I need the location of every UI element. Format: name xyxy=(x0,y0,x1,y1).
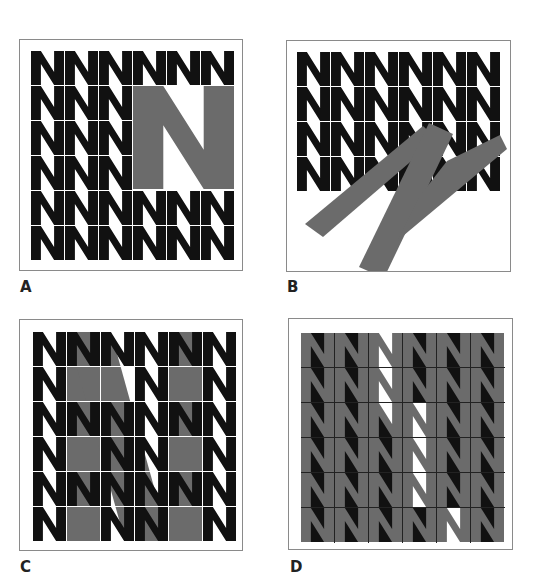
letter-n-glyph xyxy=(203,367,236,401)
panel-b-label: B xyxy=(287,280,298,295)
letter-n-glyph xyxy=(203,402,236,436)
letter-n-glyph xyxy=(65,121,98,155)
letter-n-glyph xyxy=(135,332,168,366)
letter-n-glyph xyxy=(133,226,166,260)
letter-n-glyph xyxy=(135,367,168,401)
letter-n-glyph xyxy=(31,86,64,120)
letter-n-glyph xyxy=(33,402,66,436)
panel-d-artwork xyxy=(289,319,512,549)
letter-n-glyph xyxy=(135,402,168,436)
letter-n-glyph xyxy=(31,191,64,225)
letter-n-glyph xyxy=(65,86,98,120)
letter-n-glyph xyxy=(399,52,432,86)
letter-n-glyph xyxy=(331,87,364,121)
letter-n-glyph xyxy=(33,472,66,506)
letter-n-glyph xyxy=(201,226,234,260)
letter-n-glyph xyxy=(399,87,432,121)
panel-a-label: A xyxy=(20,280,32,295)
letter-n-glyph xyxy=(31,121,64,155)
letter-n-glyph xyxy=(99,156,132,190)
letter-n-glyph xyxy=(65,51,98,85)
large-n-glyph xyxy=(133,86,234,189)
letter-n-glyph xyxy=(99,121,132,155)
letter-n-glyph xyxy=(99,226,132,260)
letter-n-glyph xyxy=(65,156,98,190)
panel-c-artwork xyxy=(20,320,242,550)
letter-n-glyph xyxy=(203,472,236,506)
letter-n-glyph xyxy=(203,437,236,471)
letter-n-glyph xyxy=(433,52,466,86)
panel-a-artwork xyxy=(20,40,242,270)
letter-n-glyph xyxy=(133,191,166,225)
letter-n-glyph xyxy=(167,191,200,225)
letter-n-glyph xyxy=(433,87,466,121)
letter-n-glyph xyxy=(297,122,330,156)
letter-n-glyph xyxy=(201,191,234,225)
panel-d-frame xyxy=(288,318,513,550)
letter-n-glyph xyxy=(135,437,168,471)
letter-n-glyph xyxy=(365,87,398,121)
letter-n-glyph xyxy=(167,51,200,85)
letter-n-glyph xyxy=(99,86,132,120)
letter-n-glyph xyxy=(31,156,64,190)
panel-d-label: D xyxy=(290,560,302,575)
letter-n-glyph xyxy=(297,157,330,191)
letter-n-glyph xyxy=(331,52,364,86)
letter-n-glyph xyxy=(99,51,132,85)
letter-n-glyph xyxy=(331,122,364,156)
letter-n-glyph xyxy=(31,226,64,260)
panel-a-frame xyxy=(19,39,243,271)
letter-n-glyph xyxy=(33,367,66,401)
letter-n-glyph xyxy=(33,507,66,541)
letter-n-glyph xyxy=(167,226,200,260)
letter-n-glyph xyxy=(467,87,500,121)
letter-n-glyph xyxy=(203,507,236,541)
letter-n-glyph xyxy=(99,191,132,225)
letter-n-glyph xyxy=(33,437,66,471)
letter-n-glyph xyxy=(65,191,98,225)
letter-n-glyph xyxy=(297,52,330,86)
letter-n-glyph xyxy=(31,51,64,85)
panel-c-label: C xyxy=(20,560,31,575)
letter-n-glyph xyxy=(33,332,66,366)
panel-b-frame xyxy=(286,40,511,272)
letter-n-glyph xyxy=(203,332,236,366)
letter-n-glyph xyxy=(297,87,330,121)
letter-n-glyph xyxy=(365,52,398,86)
panel-c-frame xyxy=(19,319,243,551)
letter-n-glyph xyxy=(467,52,500,86)
letter-n-glyph xyxy=(133,51,166,85)
letter-n-glyph xyxy=(65,226,98,260)
letter-n-glyph xyxy=(201,51,234,85)
panel-b-artwork xyxy=(287,41,510,271)
